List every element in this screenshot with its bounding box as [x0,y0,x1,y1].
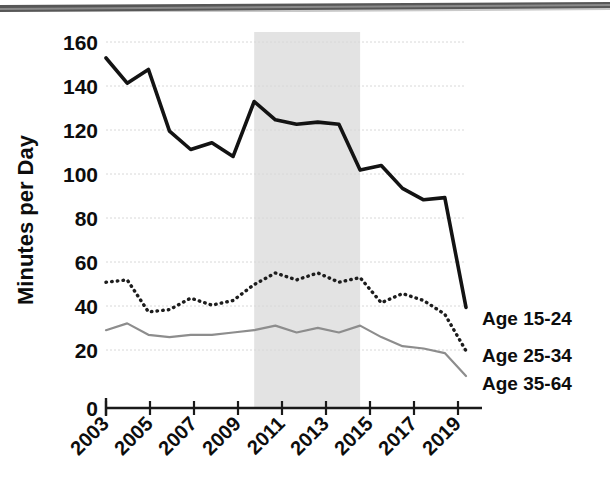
xtick-label-2005: 2005 [110,412,157,459]
xtick-label-2003: 2003 [66,412,113,459]
y-axis-title: Minutes per Day [13,134,38,305]
xtick-label-2017: 2017 [374,412,421,459]
highlight-band-group [254,32,360,408]
xtick-label-2015: 2015 [330,412,377,459]
legend-label-age-35-64: Age 35-64 [482,373,572,394]
xtick-label-2007: 2007 [154,412,201,459]
y-axis-tick-labels: 160 140 120 100 80 60 40 20 0 [63,31,98,420]
ytick-label-60: 60 [75,251,98,274]
legend-label-age-25-34: Age 25-34 [482,345,572,366]
xtick-label-2009: 2009 [198,412,245,459]
xtick-label-2011: 2011 [243,412,289,458]
ytick-label-140: 140 [63,75,98,98]
xtick-label-2013: 2013 [286,412,333,459]
chart-figure: 160 140 120 100 80 60 40 20 0 Minutes pe… [0,0,610,495]
xtick-label-2019: 2019 [418,412,465,459]
ytick-label-80: 80 [75,207,98,230]
ytick-label-40: 40 [75,295,98,318]
legend: Age 15-24 Age 25-34 Age 35-64 [482,308,572,394]
x-axis-tick-labels: 2003 2005 2007 2009 2011 2013 2015 2017 … [66,412,465,459]
line-chart-canvas: 160 140 120 100 80 60 40 20 0 Minutes pe… [0,0,610,495]
ytick-label-120: 120 [63,119,98,142]
ytick-label-160: 160 [63,31,98,54]
ytick-label-100: 100 [63,163,98,186]
legend-label-age-15-24: Age 15-24 [482,308,572,329]
ytick-label-20: 20 [75,339,98,362]
highlight-band [254,32,360,408]
